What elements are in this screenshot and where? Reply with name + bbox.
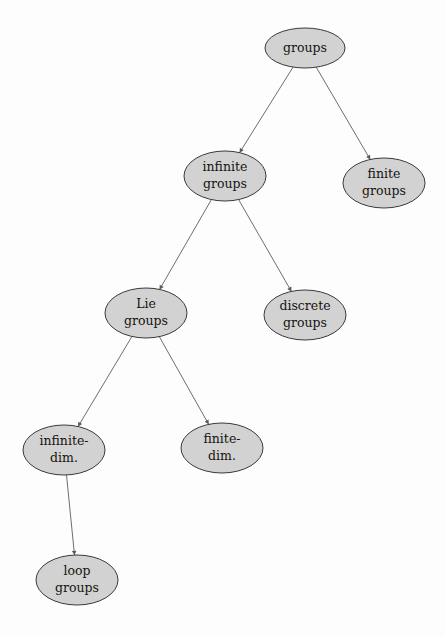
edge-groups-to-infinite-groups: [240, 67, 293, 153]
node-label-groups: groups: [283, 40, 327, 55]
edge-infinite-groups-to-discrete-groups: [239, 200, 292, 292]
node-label-loop-groups: loop: [63, 563, 90, 578]
node-loop-groups[interactable]: loopgroups: [36, 555, 118, 605]
node-label-loop-groups: groups: [55, 580, 99, 595]
node-label-lie-groups: groups: [124, 313, 168, 328]
node-label-infinite-groups: infinite: [203, 159, 248, 174]
node-label-infinite-groups: groups: [203, 176, 247, 191]
edge-infinite-dim-to-loop-groups: [67, 475, 75, 555]
node-label-discrete-groups: groups: [283, 315, 327, 330]
node-infinite-dim[interactable]: infinite-dim.: [23, 425, 105, 475]
node-label-lie-groups: Lie: [136, 296, 156, 311]
node-groups[interactable]: groups: [265, 28, 345, 68]
node-lie-groups[interactable]: Liegroups: [105, 288, 187, 338]
edge-infinite-groups-to-lie-groups: [160, 200, 212, 290]
edge-lie-groups-to-finite-dim: [159, 337, 208, 425]
node-finite-dim[interactable]: finite-dim.: [181, 423, 263, 473]
nodes-layer: groupsinfinitegroupsfinitegroupsLiegroup…: [23, 28, 425, 605]
group-taxonomy-tree: groupsinfinitegroupsfinitegroupsLiegroup…: [0, 0, 445, 636]
node-label-finite-dim: dim.: [208, 448, 236, 463]
edge-arrowhead-loop-groups: [72, 551, 77, 555]
node-infinite-groups[interactable]: infinitegroups: [184, 151, 266, 201]
diagram-canvas: groupsinfinitegroupsfinitegroupsLiegroup…: [0, 0, 445, 636]
node-label-discrete-groups: discrete: [279, 298, 330, 313]
edge-lie-groups-to-infinite-dim: [78, 336, 132, 426]
edge-groups-to-finite-groups: [316, 67, 370, 159]
node-finite-groups[interactable]: finitegroups: [343, 158, 425, 208]
node-label-finite-groups: finite: [368, 166, 401, 181]
node-label-finite-groups: groups: [362, 183, 406, 198]
node-label-infinite-dim: dim.: [50, 450, 78, 465]
node-label-finite-dim: finite-: [203, 431, 240, 446]
node-discrete-groups[interactable]: discretegroups: [264, 290, 346, 340]
node-label-infinite-dim: infinite-: [39, 433, 88, 448]
